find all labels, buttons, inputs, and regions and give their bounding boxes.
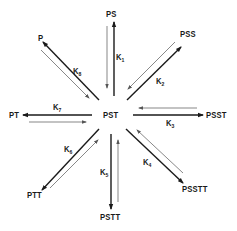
rate-constant-k4: K4: [143, 158, 151, 170]
rate-constant-k1: K1: [116, 53, 124, 65]
node-pstt: PSTT: [100, 213, 120, 222]
node-pss: PSS: [180, 30, 196, 39]
edge-pst-pstt: [111, 134, 118, 209]
edge-pst-pss: [127, 42, 181, 100]
rate-constant-k6: K6: [64, 145, 72, 157]
node-pt: PT: [9, 111, 19, 120]
edge-pst-p: [41, 42, 99, 100]
node-ptt: PTT: [27, 191, 42, 200]
edge-pst-psstt: [126, 129, 183, 183]
node-psstt: PSSTT: [182, 185, 208, 194]
edge-pst-pt: [23, 115, 92, 122]
node-center-pst: PST: [103, 111, 118, 120]
equilibrium-diagram: PST PS PSS PSST PSSTT PSTT PTT PT P K1 K…: [0, 0, 237, 231]
node-ps: PS: [106, 10, 117, 19]
rate-constant-k7: K7: [53, 103, 61, 115]
node-psst: PSST: [206, 111, 227, 120]
rate-constant-k5: K5: [100, 168, 108, 180]
edge-pst-ptt: [42, 129, 99, 190]
edge-pst-ps: [107, 22, 114, 96]
rate-constant-k8: K8: [73, 67, 81, 79]
node-p: P: [38, 34, 43, 43]
edge-pst-psst: [133, 108, 203, 115]
rate-constant-k2: K2: [156, 77, 164, 89]
rate-constant-k3: K3: [166, 119, 174, 131]
